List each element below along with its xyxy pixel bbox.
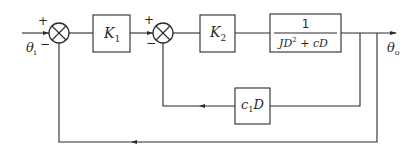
block-k1: K1: [93, 15, 130, 52]
outer-feedback-arrow-icon: [131, 140, 137, 144]
feedback-arrow-icon: [199, 104, 205, 108]
input-arrow-icon: [43, 31, 49, 35]
input-label: θi: [26, 40, 37, 57]
minus-sign: −: [40, 37, 50, 51]
block-k2: K2: [200, 15, 235, 52]
plus-sign: +: [38, 14, 48, 28]
plus-sign: +: [144, 13, 154, 27]
plant-numerator: 1: [302, 17, 310, 31]
block-plant-transfer-function: 1 JD2 + cD: [270, 14, 341, 52]
minus-sign: −: [146, 36, 156, 50]
output-label: θo: [387, 40, 400, 57]
c1d-label: c1D: [241, 97, 264, 114]
output-signal: θo: [341, 31, 400, 57]
arrow-to-sum2-icon: [147, 31, 153, 35]
output-arrow-icon: [390, 31, 397, 35]
block-diagram: θi + − K1 + − K2 1 JD2 + cD: [0, 0, 419, 154]
plant-denominator: JD2 + cD: [277, 36, 328, 50]
